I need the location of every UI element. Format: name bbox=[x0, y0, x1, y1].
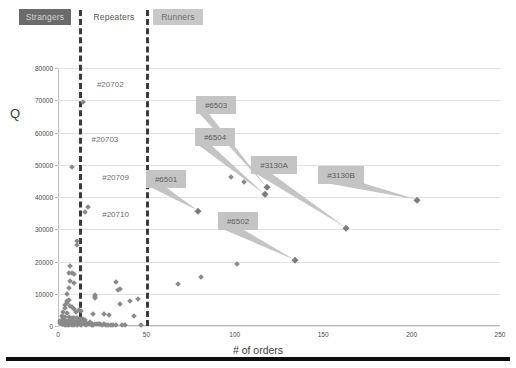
data-label-callout: #6501 bbox=[146, 170, 186, 188]
x-tick-label: 250 bbox=[495, 331, 506, 338]
y-tick-mark bbox=[55, 326, 58, 327]
x-tick-label: 150 bbox=[318, 331, 329, 338]
data-label-text: #20702 bbox=[97, 80, 124, 89]
data-label-callout: #6502 bbox=[218, 212, 258, 230]
plot-area: 0100002000030000400005000060000700008000… bbox=[58, 68, 500, 326]
y-tick-label: 70000 bbox=[35, 97, 53, 104]
data-label-text: #20710 bbox=[102, 210, 129, 219]
y-tick-label: 10000 bbox=[35, 290, 53, 297]
x-tick-label: 200 bbox=[406, 331, 417, 338]
bottom-rule bbox=[6, 357, 510, 361]
y-tick-label: 50000 bbox=[35, 161, 53, 168]
data-label-callout: #6504 bbox=[195, 128, 235, 146]
x-axis-title: # of orders bbox=[0, 344, 516, 356]
category-label-runners: Runners bbox=[153, 9, 203, 25]
y-tick-label: 60000 bbox=[35, 129, 53, 136]
data-label-text: #20709 bbox=[102, 173, 129, 182]
callout-leader-lines bbox=[58, 68, 500, 326]
x-tick-label: 50 bbox=[143, 331, 150, 338]
y-tick-label: 40000 bbox=[35, 194, 53, 201]
x-tick-label: 0 bbox=[56, 331, 60, 338]
y-tick-label: 30000 bbox=[35, 226, 53, 233]
x-tick-label: 100 bbox=[229, 331, 240, 338]
chart-canvas: Strangers Repeaters Runners Q 0100002000… bbox=[0, 0, 516, 368]
y-tick-label: 0 bbox=[49, 323, 53, 330]
y-tick-label: 20000 bbox=[35, 258, 53, 265]
data-label-callout: #6503 bbox=[196, 96, 236, 114]
data-label-callout: #3130B bbox=[318, 166, 364, 184]
y-tick-label: 80000 bbox=[35, 65, 53, 72]
category-label-strangers: Strangers bbox=[19, 9, 71, 25]
category-label-repeaters: Repeaters bbox=[86, 9, 142, 25]
data-label-text: #20703 bbox=[92, 135, 119, 144]
y-axis-title: Q bbox=[10, 106, 20, 121]
data-label-callout: #3130A bbox=[251, 156, 297, 174]
